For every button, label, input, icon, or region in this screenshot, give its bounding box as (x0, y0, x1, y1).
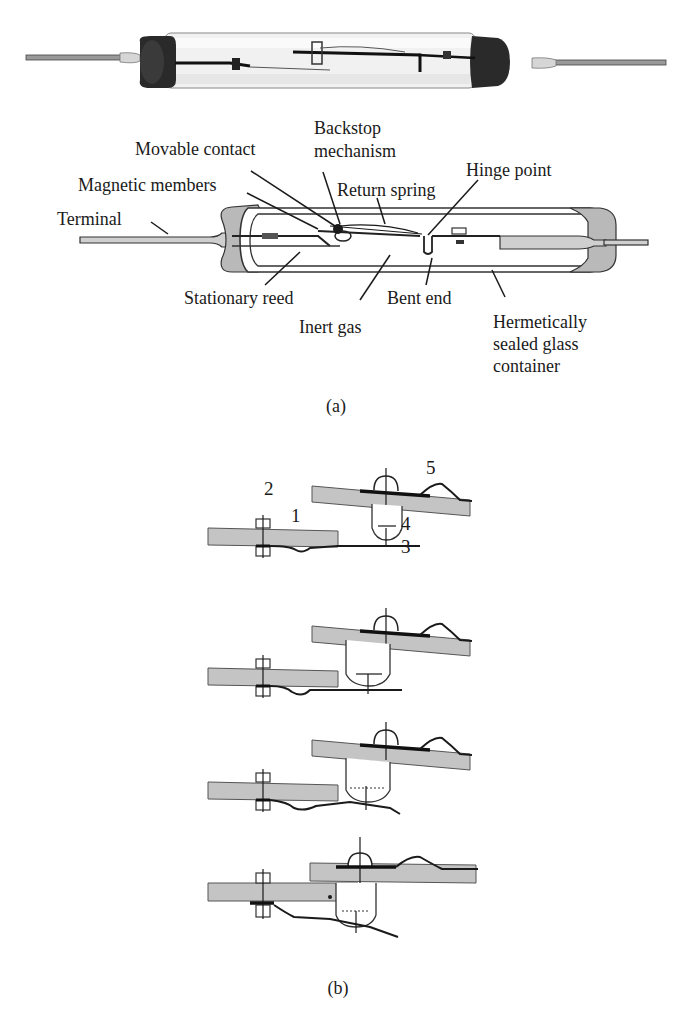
label-movable-contact: Movable contact (135, 139, 255, 159)
caption-b: (b) (328, 978, 349, 999)
figure-canvas: Backstop mechanism Movable contact Hinge… (0, 0, 689, 1014)
stage-1 (208, 468, 472, 558)
label-hermetic-2: sealed glass (493, 334, 578, 354)
label-backstop-1: Backstop (314, 118, 381, 138)
label-terminal: Terminal (57, 209, 122, 229)
label-hermetic-1: Hermetically (493, 312, 587, 332)
part-number-2: 2 (264, 478, 274, 499)
stage-3 (208, 722, 472, 814)
label-backstop-2: mechanism (314, 141, 396, 161)
label-inert-gas: Inert gas (299, 317, 361, 337)
part-number-5: 5 (426, 457, 436, 478)
reed-relay-photo (26, 33, 666, 88)
label-hinge-point: Hinge point (466, 160, 552, 180)
part-number-3: 3 (401, 536, 411, 557)
label-hermetic-3: container (493, 356, 560, 376)
stage-4 (208, 837, 478, 937)
label-stationary-reed: Stationary reed (184, 288, 293, 308)
stage-2 (208, 608, 472, 698)
part-number-4: 4 (401, 513, 411, 534)
label-bent-end: Bent end (387, 288, 452, 308)
caption-a: (a) (326, 396, 346, 417)
label-magnetic-members: Magnetic members (78, 175, 216, 195)
reed-switch-schematic (80, 205, 648, 272)
part-number-1: 1 (291, 505, 301, 526)
label-return-spring: Return spring (337, 180, 436, 200)
